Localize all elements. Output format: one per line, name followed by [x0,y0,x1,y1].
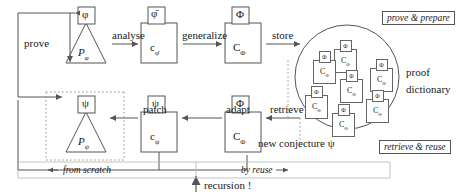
certificate-capital-phi-body: CΦ [233,38,245,57]
dictionary-entry-body: CΦ [305,95,328,119]
certificate-psi-body-sub: ψ [155,138,159,146]
certificate-capital-phi-body-sub: Φ [240,49,245,57]
proof-phi-body-symbol: P [78,46,85,58]
dictionary-entry-body: CΦ [332,113,355,137]
proof-psi-body-symbol: P [78,135,85,147]
certificate-phi-bar-body: cφ̄ [150,38,159,57]
tag-retrieve-and-reuse-text: retrieve & reuse [379,140,451,154]
proof-psi-top-symbol: ψ [82,98,89,109]
dictionary-entry-top-symbol: Φ [372,90,384,102]
dictionary-entry-top-symbol: Φ [340,40,352,52]
proof-phi-body-sub: φ [85,54,89,62]
adapt-label: adapt [226,104,250,115]
dictionary-entry-body: CΦ [370,68,393,92]
proof-dictionary-label-line1: proof [406,67,430,78]
store-label: store [272,30,293,41]
dictionary-entry-body: CΦ [313,60,336,84]
generalize-label: generalize [182,30,227,41]
dictionary-entry-top-symbol: Φ [311,86,323,98]
new-conjecture-label: new conjecture ψ [258,138,335,149]
certificate-capital-phi-retrieved-body: CΦ [233,127,245,146]
tag-prove-and-prepare-text: prove & prepare [382,11,455,25]
dictionary-entry-top-symbol: Φ [346,70,358,82]
proof-phi-body: Pφ [78,43,89,62]
prove-arrow [18,13,75,97]
dictionary-entry-body: CΦ [340,79,363,103]
footer-from-scratch: from scratch [63,166,111,176]
proof-dictionary-label-line2: dictionary [406,84,451,95]
tag-retrieve-and-reuse: retrieve & reuse [379,137,451,153]
proof-phi-top-symbol: φ [82,9,88,20]
proof-psi-body: Pψ [78,132,89,151]
certificate-phi-bar-top-symbol: φ̄ [151,8,157,19]
proof-psi-body-sub: ψ [85,143,89,151]
prove-label: prove [24,38,49,49]
analyse-label: analyse [112,30,145,41]
certificate-capital-phi-retrieved-body-sub: Φ [240,138,245,146]
dictionary-entry-top-symbol: Φ [376,59,388,71]
certificate-capital-phi-top-symbol: Φ [236,9,244,20]
certificate-psi-body: cψ [150,127,159,146]
footer-by-reuse: by reuse [241,166,273,176]
certificate-phi-bar-body-sub: φ̄ [155,49,159,57]
recursion-feedback-path [18,100,247,170]
dictionary-entry-top-symbol: Φ [338,104,350,116]
certificate-phi-bar-box [141,7,177,63]
dictionary-entry-top-symbol: Φ [319,51,331,63]
dictionary-entry-body: CΦ [366,99,389,123]
tag-prove-and-prepare: prove & prepare [382,8,455,24]
retrieve-label: retrieve [270,104,304,115]
patch-label: patch [143,104,167,115]
diagram-canvas: CΦΦCΦΦCΦΦCΦΦCΦΦCΦΦCΦΦ φ Pφ φ̄ cφ̄ Φ CΦ ψ… [0,0,463,196]
footer-recursion: recursion ! [204,180,251,191]
